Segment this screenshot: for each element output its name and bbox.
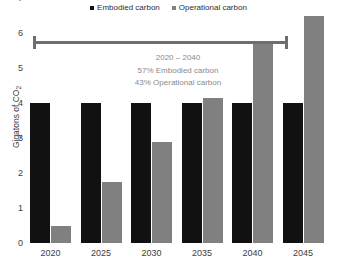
bar-2025-embodied xyxy=(81,103,101,243)
bar-2020-embodied xyxy=(30,103,50,243)
range-annotation-text: 2020 – 2040 57% Embodied carbon 43% Oper… xyxy=(108,52,248,90)
bar-2020-operational xyxy=(51,226,71,244)
range-annotation-cap-right xyxy=(285,36,288,49)
range-annotation-cap-left xyxy=(33,36,36,49)
x-axis-tick-2040: 2040 xyxy=(242,249,262,258)
x-axis-tick-2035: 2035 xyxy=(192,249,212,258)
bar-chart: Embodied carbon Operational carbon Gigat… xyxy=(0,0,337,264)
bar-2025-operational xyxy=(102,182,122,243)
bar-2045-operational xyxy=(304,16,324,244)
range-annotation-embodied-share: 57% Embodied carbon xyxy=(108,65,248,78)
bar-2045-embodied xyxy=(283,103,303,243)
bar-2040-embodied xyxy=(232,103,252,243)
bar-2030-operational xyxy=(152,142,172,244)
x-axis-tick-2045: 2045 xyxy=(293,249,313,258)
bar-2035-operational xyxy=(203,98,223,243)
range-annotation-period: 2020 – 2040 xyxy=(108,52,248,65)
bar-2035-embodied xyxy=(182,103,202,243)
x-axis-tick-2025: 2025 xyxy=(91,249,111,258)
bar-2030-embodied xyxy=(131,103,151,243)
bar-2040-operational xyxy=(253,44,273,244)
range-annotation-bar xyxy=(34,41,287,44)
x-axis-tick-2030: 2030 xyxy=(141,249,161,258)
x-axis-tick-2020: 2020 xyxy=(40,249,60,258)
range-annotation-operational-share: 43% Operational carbon xyxy=(108,77,248,90)
x-axis: 202020252030203520402045 xyxy=(0,245,337,263)
